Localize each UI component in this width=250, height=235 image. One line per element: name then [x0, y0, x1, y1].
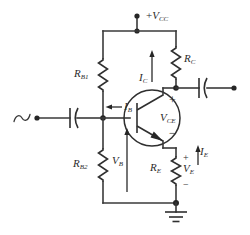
rb2-subscript: B2: [80, 163, 88, 171]
ve-plus-sign: +: [183, 153, 189, 163]
re-subscript: E: [157, 167, 161, 175]
supply-terminal-dot: [134, 13, 139, 18]
transistor-emitter-arrowhead: [151, 131, 164, 141]
ib-label: IB: [124, 101, 132, 112]
rb2-label: RB2: [73, 158, 87, 169]
rc-symbol: R: [184, 52, 191, 64]
vb-symbol: V: [112, 154, 119, 166]
vb-label: VB: [112, 155, 123, 166]
resistor-rc: [172, 46, 181, 80]
resistor-re: [172, 156, 181, 186]
ie-label: IE: [200, 146, 208, 157]
output-terminal-dot: [231, 85, 236, 90]
rb1-symbol: R: [74, 67, 81, 79]
vce-plus-sign: +: [169, 94, 176, 106]
ve-symbol: V: [183, 162, 190, 174]
ac-source-icon: [14, 115, 30, 122]
rb2-symbol: R: [73, 157, 80, 169]
resistor-rb1: [99, 58, 108, 92]
ic-arrowhead: [149, 50, 154, 57]
transistor-collector-lead: [137, 95, 163, 110]
vb-arrowhead: [124, 128, 129, 135]
input-terminal-dot: [34, 115, 39, 120]
ve-minus-sign: −: [183, 180, 189, 190]
vce-subscript: CE: [167, 117, 176, 125]
supply-subscript: CC: [159, 15, 168, 23]
supply-label: +VCC: [146, 10, 168, 21]
rc-subscript: C: [191, 58, 196, 66]
vce-symbol: V: [160, 111, 167, 123]
supply-symbol: V: [152, 9, 159, 21]
vb-subscript: B: [119, 160, 123, 168]
ic-label: IC: [139, 72, 147, 83]
rb1-label: RB1: [74, 68, 88, 79]
ic-subscript: C: [143, 77, 148, 85]
resistor-rb2: [99, 148, 108, 182]
rc-label: RC: [184, 53, 195, 64]
vce-minus-sign: −: [169, 127, 176, 139]
circuit-schematic: [0, 0, 250, 235]
ib-subscript: B: [128, 106, 132, 114]
ib-arrowhead: [106, 104, 113, 109]
ve-label: VE: [183, 163, 194, 174]
ie-subscript: E: [204, 151, 208, 159]
re-symbol: R: [150, 161, 157, 173]
ve-subscript: E: [190, 168, 194, 176]
rb1-subscript: B1: [81, 73, 89, 81]
re-label: RE: [150, 162, 161, 173]
vce-label: VCE: [160, 112, 175, 123]
transistor-bias-circuit-figure: +VCC RB1 RB2 RC RE IB IC IE VB VE VCE + …: [0, 0, 250, 235]
